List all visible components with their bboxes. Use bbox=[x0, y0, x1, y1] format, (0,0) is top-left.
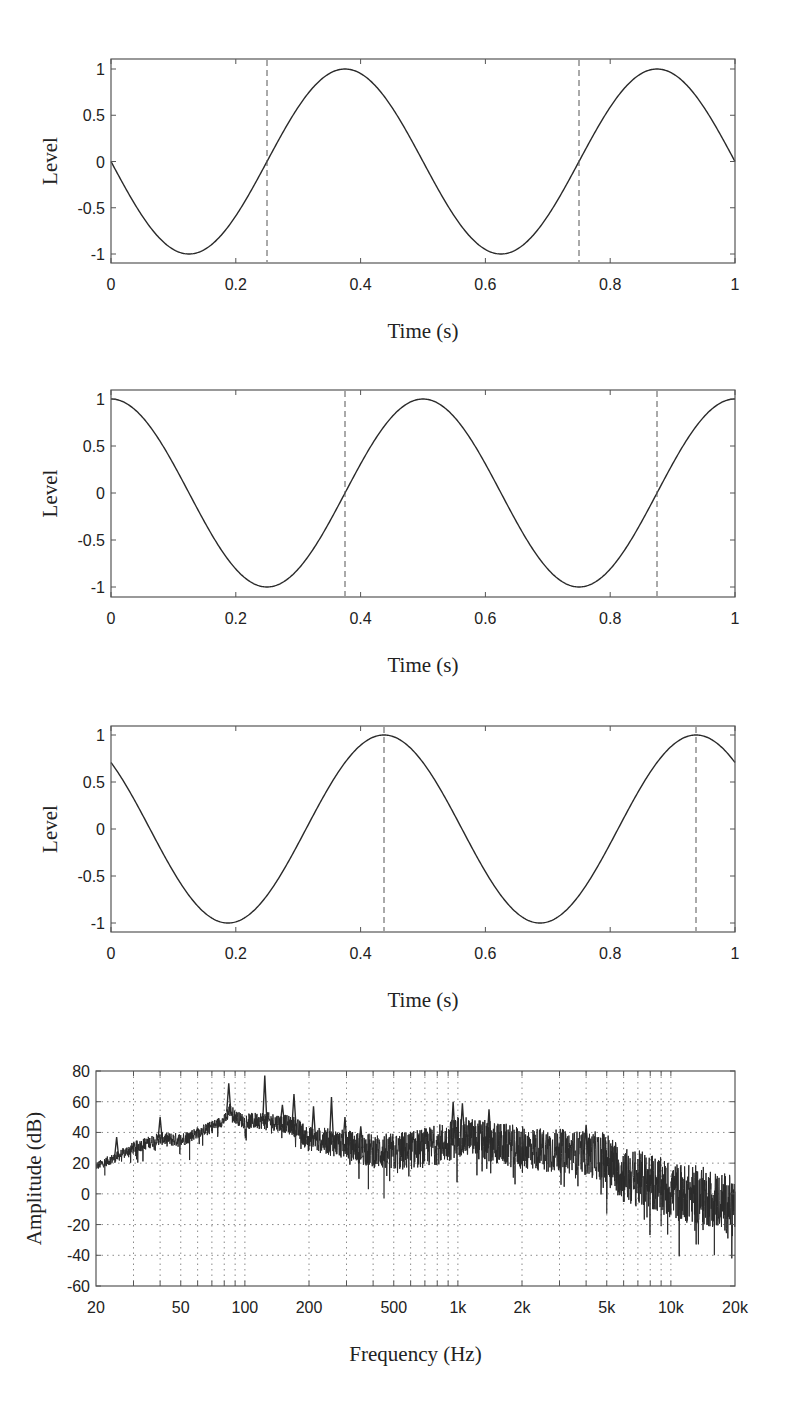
y-axis-title: Level bbox=[38, 137, 62, 185]
x-tick-label: 0.8 bbox=[599, 610, 621, 627]
signal-line bbox=[111, 399, 735, 587]
x-tick-label: 1 bbox=[731, 276, 740, 293]
x-tick-label: 0 bbox=[107, 276, 116, 293]
x-tick-label: 0.4 bbox=[349, 276, 371, 293]
x-axis-title: Time (s) bbox=[388, 653, 459, 677]
y-tick-label: -1 bbox=[91, 246, 105, 263]
y-tick-label: 1 bbox=[96, 391, 105, 408]
y-tick-label: 0.5 bbox=[83, 107, 105, 124]
signal-line bbox=[111, 69, 735, 254]
x-tick-label: 0.2 bbox=[225, 276, 247, 293]
y-tick-label: 0 bbox=[96, 485, 105, 502]
y-tick-label: 0 bbox=[96, 821, 105, 838]
x-tick-label: 0.8 bbox=[599, 945, 621, 962]
y-tick-label: -0.5 bbox=[77, 200, 105, 217]
x-tick-label: 0.6 bbox=[474, 945, 496, 962]
x-tick-label: 0.2 bbox=[225, 610, 247, 627]
y-tick-label: 0 bbox=[96, 154, 105, 171]
waveform-plot-2: 00.20.40.60.8110.50-0.5-1Time (s)Level bbox=[38, 390, 740, 677]
x-tick-label: 0.8 bbox=[599, 276, 621, 293]
y-axis-title: Level bbox=[38, 469, 62, 517]
y-tick-label: 1 bbox=[96, 61, 105, 78]
x-axis-title: Time (s) bbox=[388, 319, 459, 343]
x-tick-label: 200 bbox=[296, 1299, 323, 1316]
waveform-plot-1: 00.20.40.60.8110.50-0.5-1Time (s)Level bbox=[38, 59, 740, 343]
y-tick-label: 40 bbox=[72, 1124, 90, 1141]
y-axis-title: Level bbox=[38, 805, 62, 853]
x-tick-label: 20 bbox=[87, 1299, 105, 1316]
y-tick-label: -1 bbox=[91, 915, 105, 932]
x-tick-label: 0.4 bbox=[349, 945, 371, 962]
y-tick-label: 0.5 bbox=[83, 438, 105, 455]
spectrum-line bbox=[96, 1104, 735, 1259]
x-tick-label: 20k bbox=[722, 1299, 749, 1316]
x-tick-label: 5k bbox=[598, 1299, 616, 1316]
x-tick-label: 50 bbox=[172, 1299, 190, 1316]
x-tick-label: 0.6 bbox=[474, 276, 496, 293]
x-tick-label: 0.4 bbox=[349, 610, 371, 627]
y-tick-label: -40 bbox=[67, 1247, 90, 1264]
y-axis-title: Amplitude (dB) bbox=[22, 1112, 46, 1246]
spectral-peak bbox=[312, 1106, 316, 1139]
x-tick-label: 2k bbox=[514, 1299, 532, 1316]
y-tick-label: -60 bbox=[67, 1278, 90, 1295]
x-tick-label: 0 bbox=[107, 945, 116, 962]
x-tick-label: 0.2 bbox=[225, 945, 247, 962]
y-tick-label: -0.5 bbox=[77, 532, 105, 549]
y-tick-label: 60 bbox=[72, 1094, 90, 1111]
x-tick-label: 1 bbox=[731, 610, 740, 627]
axes-frame bbox=[111, 390, 735, 597]
x-tick-label: 500 bbox=[380, 1299, 407, 1316]
spectral-peak bbox=[280, 1105, 284, 1123]
y-tick-label: 0.5 bbox=[83, 774, 105, 791]
waveform-plot-3: 00.20.40.60.8110.50-0.5-1Time (s)Level bbox=[38, 726, 740, 1012]
x-tick-label: 0.6 bbox=[474, 610, 496, 627]
x-tick-label: 1 bbox=[731, 945, 740, 962]
x-tick-label: 1k bbox=[449, 1299, 467, 1316]
spectral-peak bbox=[460, 1103, 464, 1136]
spectrum-plot: 20501002005001k2k5k10k20k806040200-20-40… bbox=[22, 1063, 749, 1366]
y-tick-label: 0 bbox=[81, 1186, 90, 1203]
x-tick-label: 10k bbox=[658, 1299, 685, 1316]
x-tick-label: 100 bbox=[232, 1299, 259, 1316]
y-tick-label: -20 bbox=[67, 1217, 90, 1234]
figure: 00.20.40.60.8110.50-0.5-1Time (s)Level 0… bbox=[0, 0, 798, 1401]
axes-frame bbox=[111, 726, 735, 932]
x-axis-title: Frequency (Hz) bbox=[349, 1342, 481, 1366]
y-tick-label: -0.5 bbox=[77, 868, 105, 885]
y-tick-label: 20 bbox=[72, 1155, 90, 1172]
y-tick-label: 1 bbox=[96, 727, 105, 744]
y-tick-label: 80 bbox=[72, 1063, 90, 1080]
signal-line bbox=[111, 735, 735, 923]
x-axis-title: Time (s) bbox=[388, 988, 459, 1012]
y-tick-label: -1 bbox=[91, 579, 105, 596]
x-tick-label: 0 bbox=[107, 610, 116, 627]
